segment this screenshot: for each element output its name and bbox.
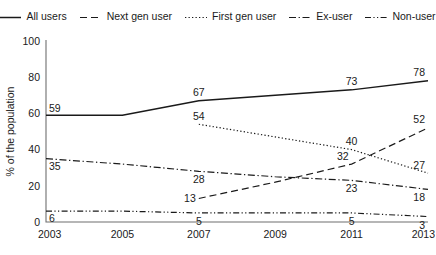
data-point-label: 67 <box>193 86 205 98</box>
data-point-label: 52 <box>413 113 425 125</box>
data-point-label: 18 <box>413 191 425 203</box>
data-point-label: 59 <box>49 102 61 114</box>
series-line-all-users <box>46 81 428 115</box>
y-tick-label: 80 <box>28 71 40 83</box>
data-point-label: 5 <box>349 215 355 227</box>
data-point-label: 35 <box>49 160 61 172</box>
data-point-label: 27 <box>413 159 425 171</box>
y-axis-title: % of the population <box>4 86 16 176</box>
y-tick-label: 100 <box>22 35 40 47</box>
y-tick-label: 60 <box>28 107 40 119</box>
x-tick-label: 2007 <box>187 228 211 240</box>
series-line-next-gen-user <box>199 128 428 199</box>
axes-group: 020406080100200320052007200920112013% of… <box>4 35 435 240</box>
series-line-first-gen-user <box>199 124 428 173</box>
y-tick-label: 40 <box>28 143 40 155</box>
data-point-label: 54 <box>193 110 205 122</box>
data-point-label: 32 <box>337 150 349 162</box>
x-tick-label: 2005 <box>111 228 135 240</box>
series-line-ex-user <box>46 159 428 190</box>
x-tick-label: 2009 <box>264 228 288 240</box>
data-point-label: 78 <box>413 66 425 78</box>
data-point-label: 3 <box>419 219 425 231</box>
data-point-label: 13 <box>184 192 196 204</box>
data-point-label: 40 <box>346 135 358 147</box>
series-group <box>46 81 428 217</box>
data-point-label: 28 <box>193 173 205 185</box>
y-tick-label: 20 <box>28 180 40 192</box>
x-tick-label: 2011 <box>340 228 363 240</box>
data-point-label: 6 <box>49 212 55 224</box>
data-point-label: 23 <box>346 182 358 194</box>
data-point-label: 73 <box>346 75 358 87</box>
y-tick-label: 0 <box>34 216 40 228</box>
data-labels-group: 59677378133252544027352823186553 <box>49 66 425 230</box>
x-tick-label: 2003 <box>38 228 62 240</box>
series-line-non-user <box>46 211 428 216</box>
data-point-label: 5 <box>196 215 202 227</box>
